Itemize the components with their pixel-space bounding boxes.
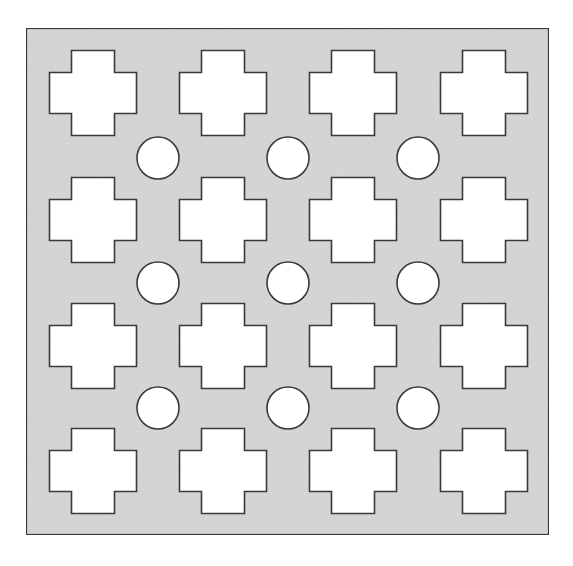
perforated-plate-diagram xyxy=(0,0,573,566)
circle-hole-r1-c1 xyxy=(137,137,179,179)
circle-hole-r3-c1 xyxy=(137,387,179,429)
circle-hole-r3-c3 xyxy=(397,387,439,429)
circle-hole-r3-c2 xyxy=(267,387,309,429)
circle-hole-r1-c3 xyxy=(397,137,439,179)
circle-hole-r2-c3 xyxy=(397,262,439,304)
circle-hole-r2-c1 xyxy=(137,262,179,304)
circle-hole-r1-c2 xyxy=(267,137,309,179)
circle-hole-r2-c2 xyxy=(267,262,309,304)
